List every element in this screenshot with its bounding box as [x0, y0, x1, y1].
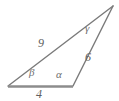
- triangle-drawing: [0, 0, 119, 101]
- side-label-right: 6: [85, 51, 91, 63]
- geometry-figure: 9 6 4 α β γ: [0, 0, 119, 101]
- side-label-long: 9: [38, 37, 44, 49]
- side-label-base: 4: [36, 88, 42, 100]
- triangle-side-right: [73, 6, 113, 86]
- angle-label-gamma: γ: [85, 23, 89, 34]
- angle-label-alpha: α: [56, 69, 62, 80]
- angle-label-beta: β: [29, 67, 34, 78]
